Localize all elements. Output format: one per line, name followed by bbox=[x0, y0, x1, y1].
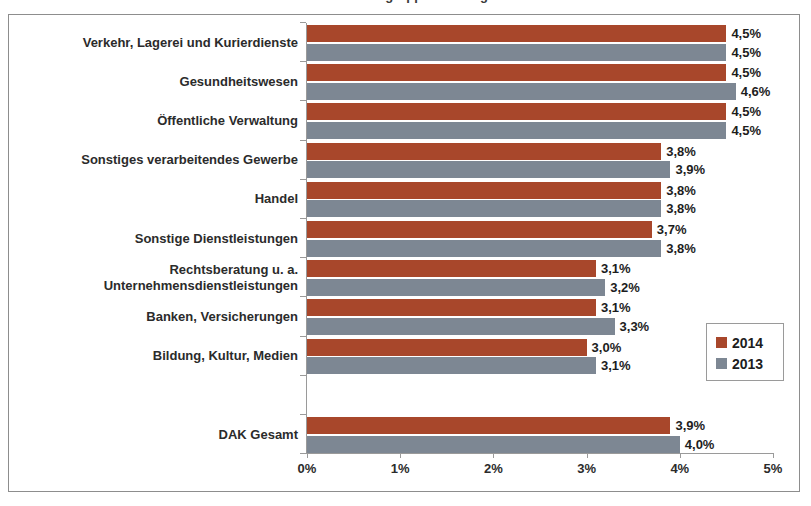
category-tick bbox=[300, 218, 306, 219]
legend-label-2013: 2013 bbox=[732, 356, 763, 372]
bar-2014 bbox=[307, 221, 652, 238]
bar-2013 bbox=[307, 279, 605, 296]
category-tick bbox=[300, 22, 306, 23]
category-label: Handel bbox=[18, 191, 298, 207]
category-tick bbox=[300, 336, 306, 337]
value-tick bbox=[400, 453, 401, 458]
value-tick-label: 2% bbox=[463, 461, 523, 476]
bar-value-label: 3,8% bbox=[666, 182, 696, 199]
bar-value-label: 3,8% bbox=[666, 143, 696, 160]
category-tick bbox=[300, 414, 306, 415]
bar-value-label: 4,5% bbox=[731, 103, 761, 120]
category-label: DAK Gesamt bbox=[18, 427, 298, 443]
bar-value-label: 3,2% bbox=[610, 279, 640, 296]
category-label: Sonstige Dienstleistungen bbox=[18, 231, 298, 247]
category-label: Rechtsberatung u. a. Unternehmensdienstl… bbox=[18, 262, 298, 294]
bar-value-label: 4,0% bbox=[685, 436, 715, 453]
legend-item-2014: 2014 bbox=[716, 332, 783, 353]
bar-value-label: 4,5% bbox=[731, 122, 761, 139]
category-tick bbox=[300, 100, 306, 101]
value-tick-label: 4% bbox=[650, 461, 710, 476]
category-tick bbox=[300, 61, 306, 62]
legend-swatch-2014 bbox=[716, 337, 727, 348]
bar-value-label: 4,5% bbox=[731, 25, 761, 42]
category-tick bbox=[300, 375, 306, 376]
bar-value-label: 4,5% bbox=[731, 64, 761, 81]
bar-2013 bbox=[307, 161, 670, 178]
bar-2013 bbox=[307, 436, 680, 453]
category-label: Banken, Versicherungen bbox=[18, 309, 298, 325]
category-label: Öffentliche Verwaltung bbox=[18, 113, 298, 129]
bar-value-label: 3,8% bbox=[666, 240, 696, 257]
value-tick-label: 5% bbox=[743, 461, 803, 476]
bar-value-label: 4,6% bbox=[741, 83, 771, 100]
category-label: Bildung, Kultur, Medien bbox=[18, 348, 298, 364]
bar-value-label: 4,5% bbox=[731, 44, 761, 61]
value-tick bbox=[680, 453, 681, 458]
category-axis-line bbox=[306, 453, 773, 454]
legend: 2014 2013 bbox=[706, 323, 784, 381]
value-tick bbox=[493, 453, 494, 458]
category-label: Gesundheitswesen bbox=[18, 74, 298, 90]
bar-value-label: 3,0% bbox=[592, 339, 622, 356]
bar-2014 bbox=[307, 25, 726, 42]
value-tick-label: 0% bbox=[277, 461, 337, 476]
value-tick bbox=[587, 453, 588, 458]
bar-2014 bbox=[307, 260, 596, 277]
value-tick bbox=[307, 453, 308, 458]
bar-2013 bbox=[307, 240, 661, 257]
bar-2014 bbox=[307, 299, 596, 316]
legend-label-2014: 2014 bbox=[732, 335, 763, 351]
category-tick bbox=[300, 140, 306, 141]
bar-value-label: 3,3% bbox=[620, 318, 650, 335]
bar-2014 bbox=[307, 103, 726, 120]
category-label: Verkehr, Lagerei und Kurierdienste bbox=[18, 35, 298, 51]
bar-2013 bbox=[307, 122, 726, 139]
chart-frame: Verkehr, Lagerei und KurierdiensteGesund… bbox=[8, 14, 800, 492]
bar-value-label: 3,1% bbox=[601, 299, 631, 316]
bar-value-label: 3,1% bbox=[601, 357, 631, 374]
value-tick-label: 3% bbox=[557, 461, 617, 476]
plot-area: Verkehr, Lagerei und KurierdiensteGesund… bbox=[9, 15, 801, 493]
bar-2013 bbox=[307, 357, 596, 374]
bar-2014 bbox=[307, 143, 661, 160]
category-tick bbox=[300, 453, 306, 454]
value-tick-label: 1% bbox=[370, 461, 430, 476]
category-tick bbox=[300, 179, 306, 180]
chart-title-strip: Krankenstand nach Branchengruppen im Ver… bbox=[0, 0, 811, 13]
category-tick bbox=[300, 296, 306, 297]
bar-2013 bbox=[307, 318, 615, 335]
bar-value-label: 3,9% bbox=[675, 417, 705, 434]
bar-2013 bbox=[307, 83, 736, 100]
chart-title: Krankenstand nach Branchengruppen im Ver… bbox=[0, 0, 811, 3]
bar-2014 bbox=[307, 339, 587, 356]
bar-value-label: 3,7% bbox=[657, 221, 687, 238]
bar-value-label: 3,1% bbox=[601, 260, 631, 277]
bar-2014 bbox=[307, 64, 726, 81]
category-label: Sonstiges verarbeitendes Gewerbe bbox=[18, 152, 298, 168]
category-tick bbox=[300, 257, 306, 258]
bar-2014 bbox=[307, 417, 670, 434]
value-tick bbox=[773, 453, 774, 458]
legend-swatch-2013 bbox=[716, 358, 727, 369]
bar-value-label: 3,8% bbox=[666, 200, 696, 217]
bar-2013 bbox=[307, 200, 661, 217]
bar-value-label: 3,9% bbox=[675, 161, 705, 178]
legend-item-2013: 2013 bbox=[716, 353, 783, 374]
bar-2014 bbox=[307, 182, 661, 199]
bar-2013 bbox=[307, 44, 726, 61]
